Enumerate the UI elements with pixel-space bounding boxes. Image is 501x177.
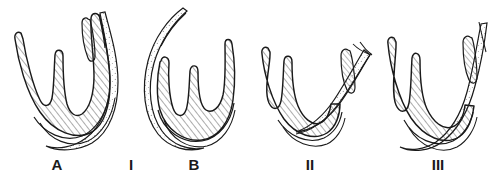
plate-background <box>0 0 501 177</box>
panel-label-ii: II <box>306 156 314 173</box>
panel-label-iii: III <box>432 156 445 173</box>
panel-label-a: A <box>52 156 63 173</box>
panel-label-i: I <box>129 156 133 173</box>
figure-plate: A I B II III <box>0 0 501 177</box>
panel-label-b: B <box>189 156 200 173</box>
figure-plate-svg: A I B II III <box>0 0 501 177</box>
